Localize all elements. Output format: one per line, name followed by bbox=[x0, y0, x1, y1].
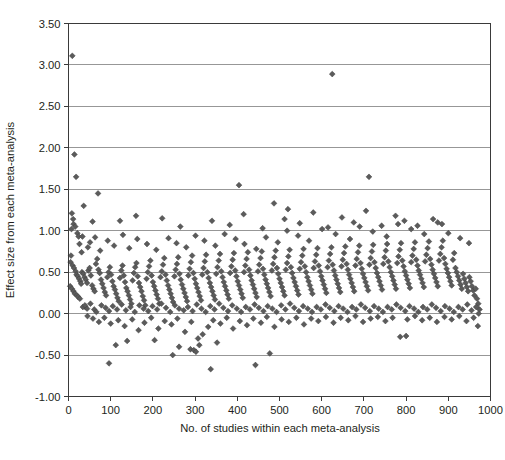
y-tick-label: -0.50 bbox=[35, 349, 61, 361]
scatter-plot-figure: -1.00-0.500.000.501.001.502.002.503.003.… bbox=[0, 0, 505, 460]
x-tick-label: 300 bbox=[186, 404, 205, 416]
y-tick-label: 1.00 bbox=[39, 225, 61, 237]
y-tick-label: 2.50 bbox=[39, 100, 61, 112]
y-tick-label: 3.50 bbox=[39, 18, 61, 30]
x-tick-label: 600 bbox=[312, 404, 331, 416]
chart-canvas: -1.00-0.500.000.501.001.502.002.503.003.… bbox=[0, 0, 505, 460]
x-axis-title: No. of studies within each meta-analysis bbox=[180, 422, 380, 434]
x-tick-label: 400 bbox=[228, 404, 247, 416]
chart-background bbox=[0, 0, 505, 460]
x-tick-label: 700 bbox=[355, 404, 374, 416]
x-tick-label: 100 bbox=[101, 404, 120, 416]
x-tick-label: 500 bbox=[270, 404, 289, 416]
x-tick-label: 0 bbox=[65, 404, 71, 416]
y-axis-title: Effect size from each meta-analysis bbox=[4, 121, 16, 298]
y-tick-label: 3.00 bbox=[39, 59, 61, 71]
x-tick-label: 200 bbox=[144, 404, 163, 416]
y-tick-label: 1.50 bbox=[39, 183, 61, 195]
y-tick-label: 0.50 bbox=[39, 266, 61, 278]
x-tick-label: 800 bbox=[397, 404, 416, 416]
y-tick-label: 0.00 bbox=[39, 308, 61, 320]
x-tick-label: 900 bbox=[439, 404, 458, 416]
y-tick-label: 2.00 bbox=[39, 142, 61, 154]
x-tick-label: 1000 bbox=[478, 404, 503, 416]
y-tick-label: -1.00 bbox=[35, 391, 61, 403]
